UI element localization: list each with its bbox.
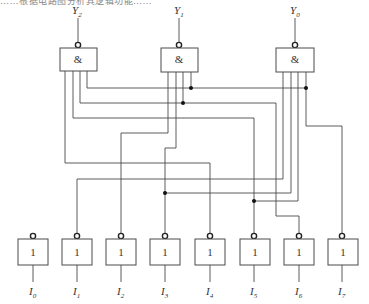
not-symbol: 1 xyxy=(162,246,168,258)
inverter-i6: 1 I6 xyxy=(284,233,314,300)
and-symbol: & xyxy=(175,53,184,65)
not-symbol: 1 xyxy=(74,246,80,258)
inverter-i7: 1 I7 xyxy=(328,233,358,300)
input-label-i0: I0 xyxy=(28,285,37,300)
inversion-bubble-icon xyxy=(292,42,297,47)
input-label-i5: I5 xyxy=(249,285,258,300)
not-symbol: 1 xyxy=(118,246,124,258)
inverter-i3: 1 I3 xyxy=(150,233,180,300)
input-label-i7: I7 xyxy=(337,285,346,300)
inversion-bubble-icon xyxy=(296,233,301,238)
wiring xyxy=(65,71,342,236)
nand-gate-y1: Y1 & xyxy=(161,4,198,72)
inversion-bubble-icon xyxy=(30,233,35,238)
inversion-bubble-icon xyxy=(118,233,123,238)
junction-dot xyxy=(163,191,167,195)
inversion-bubble-icon xyxy=(207,233,212,238)
inversion-bubble-icon xyxy=(176,42,181,47)
output-label-y2: Y2 xyxy=(72,4,82,19)
inversion-bubble-icon xyxy=(162,233,167,238)
not-symbol: 1 xyxy=(252,246,258,258)
and-symbol: & xyxy=(74,53,83,65)
and-symbol: & xyxy=(291,53,300,65)
not-symbol: 1 xyxy=(340,246,346,258)
input-label-i6: I6 xyxy=(294,285,303,300)
junction-dot xyxy=(181,101,185,105)
not-symbol: 1 xyxy=(207,246,213,258)
not-symbol: 1 xyxy=(296,246,302,258)
inverter-i1: 1 I1 xyxy=(62,233,92,300)
inversion-bubble-icon xyxy=(339,233,344,238)
inversion-bubble-icon xyxy=(74,233,79,238)
inverter-i2: 1 I2 xyxy=(106,233,136,300)
output-label-y1: Y1 xyxy=(174,4,184,19)
input-label-i1: I1 xyxy=(72,285,80,300)
encoder-circuit-diagram: Y2 & Y1 & Y0 & xyxy=(0,0,369,304)
junction-dot xyxy=(189,86,193,90)
inverter-i5: 1 I5 xyxy=(240,233,270,300)
output-label-y0: Y0 xyxy=(290,4,300,19)
input-label-i3: I3 xyxy=(160,285,169,300)
nand-gate-y2: Y2 & xyxy=(60,4,97,71)
junction-dot xyxy=(304,86,308,90)
input-label-i2: I2 xyxy=(116,285,125,300)
not-symbol: 1 xyxy=(30,246,36,258)
inversion-bubble-icon xyxy=(251,233,256,238)
inverter-i0: 1 I0 xyxy=(18,233,48,300)
inverter-i4: 1 I4 xyxy=(195,233,225,300)
inversion-bubble-icon xyxy=(75,42,80,47)
input-label-i4: I4 xyxy=(205,285,214,300)
nand-gate-y0: Y0 & xyxy=(276,4,314,72)
junction-dot xyxy=(252,199,256,203)
